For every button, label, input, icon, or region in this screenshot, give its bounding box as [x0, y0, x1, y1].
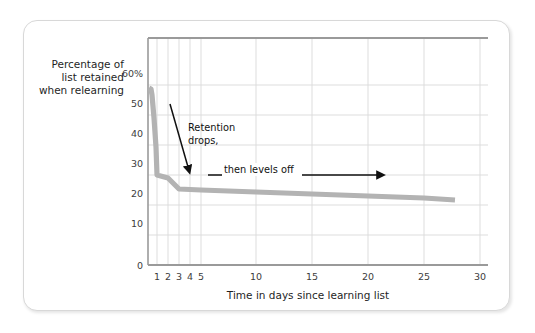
y-tick-labels: 60% 50 40 30 20 10 0 [122, 68, 143, 271]
x-tick-label: 30 [474, 271, 486, 282]
forgetting-curve-figure: 60% 50 40 30 20 10 0 1 2 3 4 5 10 15 20 … [0, 0, 535, 333]
y-tick-label: 60% [122, 68, 143, 79]
y-tick-label: 30 [131, 158, 143, 169]
x-tick-label: 5 [198, 271, 204, 282]
y-tick-label: 40 [131, 128, 143, 139]
y-axis-title: Percentage of list retained when relearn… [39, 58, 124, 96]
y-axis-title-line: list retained [61, 71, 124, 83]
x-tick-label: 10 [250, 271, 262, 282]
annotation-line: drops, [188, 135, 218, 146]
x-tick-label: 1 [154, 271, 160, 282]
x-tick-label: 4 [187, 271, 193, 282]
annotation-line: Retention [188, 122, 235, 133]
chart-plot-area: 60% 50 40 30 20 10 0 1 2 3 4 5 10 15 20 … [0, 0, 535, 333]
y-tick-label: 10 [131, 218, 143, 229]
horizontal-gridlines [148, 85, 488, 235]
annotation-levels-off: then levels off [208, 163, 378, 176]
vertical-gridlines [157, 38, 480, 265]
x-tick-label: 25 [418, 271, 430, 282]
axis-lines [148, 38, 488, 265]
x-tick-labels: 1 2 3 4 5 10 15 20 25 30 [154, 271, 486, 282]
y-tick-label: 0 [137, 260, 143, 271]
x-tick-label: 15 [306, 271, 318, 282]
x-tick-label: 20 [362, 271, 374, 282]
y-axis-title-line: when relearning [39, 84, 124, 96]
x-tick-label: 2 [165, 271, 171, 282]
y-axis-title-line: Percentage of [51, 58, 124, 70]
annotation-line: then levels off [224, 164, 294, 175]
y-tick-label: 50 [131, 98, 143, 109]
y-tick-label: 20 [131, 188, 143, 199]
annotation-retention-drops: Retention drops, [170, 104, 235, 167]
x-axis-title: Time in days since learning list [226, 289, 389, 301]
x-tick-label: 3 [176, 271, 182, 282]
